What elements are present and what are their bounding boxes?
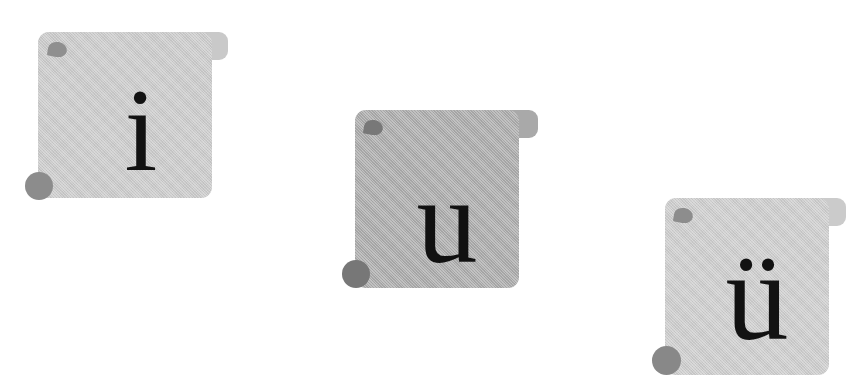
card-body: u	[355, 110, 519, 288]
corner-curl-icon	[25, 172, 53, 200]
card-body: i	[38, 32, 212, 198]
card-letter: u	[397, 162, 497, 282]
corner-leaf-icon	[47, 40, 68, 58]
corner-curl-icon	[342, 260, 370, 288]
card-letter: ü	[707, 220, 807, 360]
corner-leaf-icon	[363, 118, 384, 136]
card-body: ü	[665, 198, 829, 375]
card-letter: i	[96, 70, 186, 190]
letter-card-u[interactable]: u	[355, 110, 519, 288]
corner-leaf-icon	[673, 206, 694, 224]
corner-curl-icon	[652, 346, 681, 375]
flashcard-scene: iuü	[0, 0, 861, 384]
letter-card-ü[interactable]: ü	[665, 198, 829, 375]
letter-card-i[interactable]: i	[38, 32, 212, 198]
